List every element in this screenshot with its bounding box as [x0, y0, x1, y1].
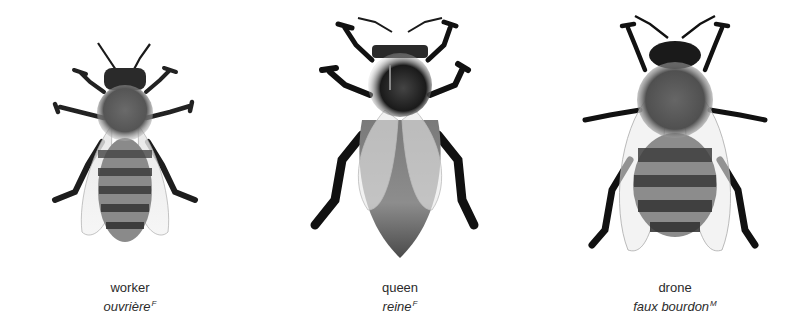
drone-bee-figure: drone faux bourdonM	[545, 0, 802, 322]
worker-bee-illustration	[0, 0, 260, 322]
queen-bee-illustration	[270, 0, 530, 322]
queen-caption: queen reineF	[300, 280, 500, 315]
worker-bee-figure: worker ouvrièreF	[0, 0, 260, 322]
drone-translation: faux bourdonM	[575, 296, 775, 315]
worker-caption: worker ouvrièreF	[30, 280, 230, 315]
drone-caption: drone faux bourdonM	[575, 280, 775, 315]
gender-marker: F	[152, 299, 157, 308]
worker-label: worker	[30, 280, 230, 296]
drone-bee-illustration	[545, 0, 802, 322]
worker-translation: ouvrièreF	[30, 296, 230, 315]
queen-translation: reineF	[300, 296, 500, 315]
queen-label: queen	[300, 280, 500, 296]
queen-bee-figure: queen reineF	[270, 0, 530, 322]
gender-marker: M	[710, 299, 717, 308]
drone-label: drone	[575, 280, 775, 296]
gender-marker: F	[413, 299, 418, 308]
